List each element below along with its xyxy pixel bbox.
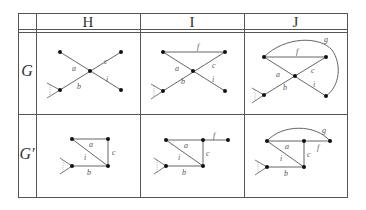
edge-label-a: a	[184, 141, 188, 150]
edge-label-b: b	[284, 169, 288, 178]
edge-label-c: c	[206, 149, 210, 158]
edge-label-g: g	[322, 126, 326, 135]
edge-label-c: c	[311, 66, 315, 75]
graph-h-g-prime: a c i b	[60, 137, 116, 177]
graph-table: H I J G G′ a	[0, 0, 366, 210]
edge-label-i: i	[313, 80, 315, 89]
edge-label-b: b	[181, 77, 185, 86]
wedge-icon	[47, 83, 60, 98]
edge-label-a: a	[89, 140, 93, 149]
edge-label-f: f	[317, 143, 321, 152]
graph-i-g-prime: a f c i b	[154, 131, 230, 177]
edge-label-i: i	[280, 154, 282, 163]
graph-j-g: f g a b c i	[252, 35, 338, 103]
edge-label-c: c	[212, 61, 216, 70]
graph-j-g-prime: a f g c i b	[255, 126, 332, 178]
edge-label-c: c	[104, 57, 108, 66]
edge-label-c: c	[307, 150, 311, 159]
graph-i-g: f a b c i	[151, 42, 227, 99]
edge-label-a: a	[276, 70, 280, 79]
edge-label-a: a	[72, 64, 76, 73]
edge-label-i: i	[84, 153, 86, 162]
edge-label-i: i	[106, 75, 108, 84]
edge-label-g: g	[324, 35, 328, 44]
edge-label-f: f	[296, 47, 300, 56]
diagram-canvas: a b c i f a b c i	[0, 0, 366, 210]
edge-label-b: b	[87, 168, 91, 177]
edge-label-b: b	[283, 83, 287, 92]
edge-label-b: b	[77, 82, 81, 91]
edge-label-b: b	[182, 168, 186, 177]
edge-label-i: i	[178, 153, 180, 162]
edge-label-c: c	[112, 148, 116, 157]
edge-label-f: f	[197, 42, 201, 51]
edge-label-i: i	[212, 75, 214, 84]
edge-label-a: a	[285, 142, 289, 151]
edge-label-f: f	[213, 131, 217, 140]
graph-h-g: a b c i	[47, 50, 123, 98]
edge-label-a: a	[175, 64, 179, 73]
